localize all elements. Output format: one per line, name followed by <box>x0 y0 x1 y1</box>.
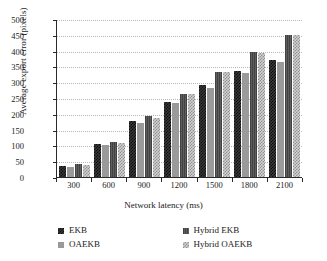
x-tick-mark <box>56 178 57 182</box>
legend-label: EKB <box>69 226 87 235</box>
bar-groups <box>57 20 302 177</box>
bar <box>285 35 292 177</box>
y-tick-mark <box>53 99 57 100</box>
x-tick-label: 1200 <box>161 180 196 190</box>
bar <box>83 165 90 177</box>
y-tick-mark <box>53 36 57 37</box>
x-tick-mark <box>197 178 198 182</box>
bar <box>258 53 265 178</box>
x-tick-mark <box>91 178 92 182</box>
x-tick-mark <box>302 178 303 182</box>
y-tick-label: 100 <box>0 142 24 151</box>
bar-group <box>197 20 232 177</box>
bar <box>94 144 101 177</box>
legend-item-oaekb: OAEKB <box>58 240 179 249</box>
y-tick-label: 50 <box>0 158 24 167</box>
x-axis-ticks: 3006009001200150018002100 <box>56 180 302 190</box>
bar <box>164 102 171 177</box>
bar-group <box>57 20 92 177</box>
bar <box>215 72 222 177</box>
y-tick-mark <box>53 162 57 163</box>
bar-group <box>162 20 197 177</box>
bar-group <box>267 20 302 177</box>
y-tick-mark <box>53 52 57 53</box>
bar <box>67 167 74 177</box>
y-tick-label: 350 <box>0 63 24 72</box>
bar <box>223 72 230 177</box>
plot-area <box>56 20 302 178</box>
bar <box>207 88 214 177</box>
y-tick-label: 150 <box>0 127 24 136</box>
bar-group <box>92 20 127 177</box>
bar <box>293 35 300 177</box>
legend-swatch-icon <box>58 228 64 234</box>
bar <box>145 116 152 177</box>
legend-swatch-icon <box>183 242 189 248</box>
legend-label: OAEKB <box>69 240 100 249</box>
y-tick-label: 450 <box>0 32 24 41</box>
y-tick-mark <box>53 67 57 68</box>
legend-label: Hybrid OAEKB <box>194 240 253 249</box>
x-tick-mark <box>232 178 233 182</box>
bar-chart-figure: Average export error (pixels) 5004504003… <box>0 0 327 261</box>
bar <box>172 103 179 177</box>
x-tick-mark <box>161 178 162 182</box>
bar <box>188 94 195 177</box>
bar <box>118 143 125 177</box>
bar <box>242 73 249 177</box>
x-tick-label: 1500 <box>197 180 232 190</box>
x-tick-mark <box>267 178 268 182</box>
chart-legend: EKBHybrid EKBOAEKBHybrid OAEKB <box>58 226 303 249</box>
bar <box>269 60 276 177</box>
bar <box>234 71 241 177</box>
bar <box>129 121 136 177</box>
x-tick-label: 600 <box>91 180 126 190</box>
x-tick-label: 900 <box>126 180 161 190</box>
legend-item-hybrid-ekb: Hybrid EKB <box>183 226 304 235</box>
x-tick-label: 1800 <box>232 180 267 190</box>
bar <box>250 52 257 177</box>
y-tick-label: 0 <box>0 174 24 183</box>
bar <box>102 145 109 177</box>
bar-group <box>232 20 267 177</box>
y-tick-mark <box>53 131 57 132</box>
bar <box>180 94 187 177</box>
bar <box>75 164 82 177</box>
y-tick-label: 500 <box>0 16 24 25</box>
y-tick-mark <box>53 146 57 147</box>
y-tick-label: 250 <box>0 95 24 104</box>
legend-swatch-icon <box>183 228 189 234</box>
legend-item-ekb: EKB <box>58 226 179 235</box>
x-tick-label: 2100 <box>267 180 302 190</box>
legend-item-hybrid-oaekb: Hybrid OAEKB <box>183 240 304 249</box>
y-tick-label: 200 <box>0 111 24 120</box>
bar <box>137 123 144 177</box>
bar <box>199 85 206 177</box>
bar-group <box>127 20 162 177</box>
y-tick-mark <box>53 83 57 84</box>
legend-label: Hybrid EKB <box>194 226 240 235</box>
y-tick-mark <box>53 115 57 116</box>
y-tick-label: 300 <box>0 79 24 88</box>
bar <box>277 62 284 177</box>
x-tick-label: 300 <box>56 180 91 190</box>
y-tick-label: 400 <box>0 48 24 57</box>
bar <box>153 118 160 177</box>
x-tick-mark <box>126 178 127 182</box>
legend-swatch-icon <box>58 242 64 248</box>
bar <box>110 142 117 177</box>
y-tick-mark <box>53 20 57 21</box>
x-axis-title: Network latency (ms) <box>0 200 327 210</box>
bar <box>59 166 66 177</box>
